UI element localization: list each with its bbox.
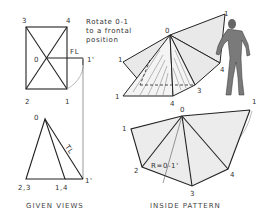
top-label-0: 0	[34, 56, 39, 64]
top-label-4: 4	[66, 17, 71, 25]
pattern-label-4: 4	[230, 171, 235, 179]
pyramid-development-drawing: 3 4 2 1 0 FL 1' 0 TL 2,3 1,4 1' GIVEN VI…	[0, 0, 267, 219]
pictorial-view: 0 1 1 1 4 3 4	[115, 10, 229, 108]
note-line-3: position	[86, 36, 119, 44]
pict-label-1c: 1	[115, 93, 120, 101]
pict-label-3: 3	[197, 87, 202, 95]
pict-label-4b: 4	[170, 100, 175, 108]
caption-given-views: GIVEN VIEWS	[26, 202, 84, 210]
inside-pattern: 0 1 1 2 3 4 R=0-1'	[122, 98, 257, 198]
front-view: 0 TL 2,3 1,4 1'	[18, 114, 93, 192]
pattern-label-0: 0	[180, 106, 185, 114]
front-label-tl: TL	[62, 142, 75, 155]
rotate-note: Rotate 0-1 to a frontal position	[86, 18, 132, 44]
pattern-radius-label: R=0-1'	[151, 162, 179, 170]
caption-inside-pattern: INSIDE PATTERN	[150, 202, 221, 210]
top-label-2: 2	[25, 98, 30, 106]
pattern-label-2: 2	[134, 167, 139, 175]
pict-label-1a: 1	[118, 56, 123, 64]
note-line-1: Rotate 0-1	[86, 18, 129, 26]
pattern-label-3: 3	[190, 190, 195, 198]
top-label-1prime: 1'	[87, 56, 95, 64]
top-label-fl: FL	[70, 48, 79, 56]
note-line-2: to a frontal	[86, 27, 132, 35]
top-label-1: 1	[65, 98, 70, 106]
pict-label-4a: 4	[220, 66, 225, 74]
front-label-1prime: 1'	[85, 177, 93, 185]
front-label-0: 0	[34, 114, 39, 122]
top-label-3: 3	[22, 17, 27, 25]
pattern-label-1a: 1	[122, 125, 127, 133]
front-label-14: 1,4	[55, 184, 68, 192]
pattern-label-1b: 1	[252, 98, 257, 106]
top-view: 3 4 2 1 0 FL 1'	[22, 17, 95, 179]
pict-label-1b: 1	[224, 10, 229, 18]
pict-label-0: 0	[165, 27, 170, 35]
front-label-23: 2,3	[18, 184, 31, 192]
